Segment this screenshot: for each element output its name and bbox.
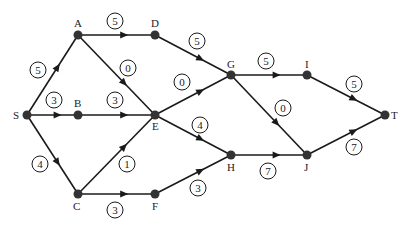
node-j (303, 151, 312, 160)
edge-weight: 3 (107, 202, 123, 218)
edge-weight: 5 (346, 76, 362, 92)
network-diagram: 53450313504350757 SABCDEFGHIJT (0, 0, 413, 231)
edge-weight: 0 (275, 100, 291, 116)
node-g (227, 71, 236, 80)
svg-text:1: 1 (124, 158, 130, 170)
arrowhead-icon (120, 32, 128, 39)
node-label-e: E (152, 120, 159, 132)
node-label-j: J (304, 161, 309, 173)
node-c (74, 190, 83, 199)
svg-text:4: 4 (197, 119, 203, 131)
edge-g-i (231, 72, 307, 79)
svg-text:4: 4 (37, 158, 43, 170)
edge-a-d (78, 32, 155, 39)
svg-text:5: 5 (35, 64, 41, 76)
edge-weight: 7 (260, 163, 276, 179)
edge-weight: 5 (189, 33, 205, 49)
svg-text:3: 3 (195, 182, 201, 194)
edge-weight: 1 (119, 156, 135, 172)
edge-weight: 0 (120, 60, 136, 76)
arrowhead-icon (120, 191, 128, 198)
edge-weight: 3 (107, 92, 123, 108)
edge-s-c (27, 115, 78, 194)
node-b (74, 111, 83, 120)
svg-text:3: 3 (51, 94, 57, 106)
node-label-g: G (227, 58, 235, 70)
node-h (227, 151, 236, 160)
node-d (151, 31, 160, 40)
edge-weight: 5 (30, 62, 46, 78)
svg-text:0: 0 (179, 76, 185, 88)
svg-text:5: 5 (112, 15, 118, 27)
node-label-f: F (152, 200, 158, 212)
edge-weight: 3 (190, 180, 206, 196)
node-label-b: B (74, 97, 81, 109)
node-i (303, 71, 312, 80)
svg-text:5: 5 (263, 55, 269, 67)
arrowhead-icon (120, 112, 128, 119)
edge-s-b (27, 112, 78, 119)
node-label-s: S (13, 109, 19, 121)
node-label-t: T (391, 109, 398, 121)
node-label-c: C (73, 200, 80, 212)
edge-i-t (307, 75, 385, 115)
node-a (74, 31, 83, 40)
svg-text:0: 0 (280, 102, 286, 114)
svg-text:7: 7 (265, 165, 271, 177)
edge-g-j (231, 75, 307, 155)
node-t (381, 111, 390, 120)
edge-h-j (231, 152, 307, 159)
edge-c-f (78, 191, 155, 198)
node-label-i: I (305, 58, 309, 70)
edge-e-g (155, 75, 231, 115)
arrowhead-icon (52, 64, 59, 73)
edge-weight: 4 (192, 117, 208, 133)
nodes-layer (23, 31, 390, 199)
edge-weight: 0 (174, 74, 190, 90)
svg-text:3: 3 (112, 94, 118, 106)
edge-b-e (78, 112, 155, 119)
edge-weight: 7 (346, 139, 362, 155)
svg-text:3: 3 (112, 204, 118, 216)
arrowhead-icon (54, 112, 62, 119)
arrowhead-icon (52, 157, 59, 166)
node-label-h: H (227, 161, 235, 173)
edge-weight: 5 (258, 53, 274, 69)
edge-c-e (78, 115, 155, 194)
arrowhead-icon (273, 152, 281, 159)
edge-weight: 3 (46, 92, 62, 108)
node-s (23, 111, 32, 120)
svg-text:0: 0 (125, 62, 131, 74)
svg-text:7: 7 (351, 141, 357, 153)
node-label-d: D (151, 17, 159, 29)
graph-canvas: 53450313504350757 SABCDEFGHIJT (0, 0, 413, 231)
node-label-a: A (74, 17, 82, 29)
edge-weight: 5 (107, 13, 123, 29)
svg-text:5: 5 (351, 78, 357, 90)
node-e (151, 111, 160, 120)
edge-weight: 4 (32, 156, 48, 172)
svg-text:5: 5 (194, 35, 200, 47)
arrowhead-icon (273, 72, 281, 79)
node-f (151, 190, 160, 199)
